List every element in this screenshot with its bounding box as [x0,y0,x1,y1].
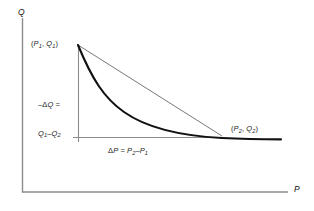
point2-p-symbol: P [234,124,239,133]
point2-label: (P2, Q2) [231,124,258,135]
delta-q-q1-subscript: 1 [44,132,47,138]
delta-p-label: ΔP = P2–P1 [108,146,148,157]
delta-q-minus-delta: –Δ [38,100,47,109]
point1-p-symbol: P [34,39,39,48]
delta-q-q2-subscript: 2 [57,132,60,138]
delta-q-line2: Q1–Q2 [38,129,61,140]
point2-close-paren: ) [255,124,258,133]
main-axes [22,18,288,193]
delta-p-p1-subscript: 1 [145,150,148,156]
point1-q-subscript: 1 [52,43,55,49]
point2-q-subscript: 2 [252,128,255,134]
point1-p-subscript: 1 [39,43,42,49]
x-axis-label: P [294,185,300,195]
delta-p-p2-subscript: 2 [132,150,135,156]
delta-q-label: –ΔQ = Q1–Q2 [38,81,61,158]
demand-curve-figure: Q P (P1, Q1) (P2, Q2) –ΔQ = Q1–Q2 ΔP = P… [0,0,314,211]
delta-p-equals: = [118,146,127,155]
y-axis-label: Q [18,8,25,18]
point1-close-paren: ) [55,39,58,48]
point2-p-subscript: 2 [239,128,242,134]
point1-label: (P1, Q1) [31,39,58,50]
chord-secant-line [78,45,222,136]
delta-q-line1: –ΔQ = [38,100,61,110]
reference-lines [73,45,224,142]
delta-q-equals: = [53,100,60,109]
